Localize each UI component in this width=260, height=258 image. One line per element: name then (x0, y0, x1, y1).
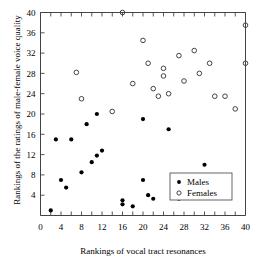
data-point-female (141, 38, 146, 43)
data-point-male (54, 137, 58, 141)
data-point-male (64, 185, 68, 189)
x-axis-title: Rankings of vocal tract resonances (80, 246, 205, 256)
data-point-female (192, 48, 197, 53)
data-point-female (182, 79, 187, 84)
x-tick-label: 36 (221, 222, 231, 232)
data-point-male (146, 193, 150, 197)
legend-label-females: Females (187, 188, 217, 198)
data-point-female (207, 61, 212, 66)
x-tick-label: 8 (79, 222, 84, 232)
data-point-female (74, 70, 79, 75)
data-point-female (161, 66, 166, 71)
x-tick-label: 32 (200, 222, 209, 232)
data-point-male (85, 122, 89, 126)
data-point-female (79, 96, 84, 101)
data-point-female (212, 94, 217, 99)
data-point-male (131, 204, 135, 208)
x-tick-label: 12 (98, 222, 107, 232)
data-point-female (130, 81, 135, 86)
y-tick-label: 32 (27, 48, 36, 58)
data-point-male (202, 163, 206, 167)
y-tick-label: 8 (31, 170, 36, 180)
data-point-female (233, 107, 238, 112)
y-tick-label: 12 (27, 150, 36, 160)
data-point-female (197, 71, 202, 76)
x-axis-title-container: Rankings of vocal tract resonances (40, 240, 246, 258)
data-point-male (59, 178, 63, 182)
data-point-female (223, 94, 228, 99)
data-point-male (120, 198, 124, 202)
data-point-female (177, 53, 182, 58)
x-tick-label: 16 (118, 222, 128, 232)
data-point-female (156, 94, 161, 99)
data-point-male (141, 117, 145, 121)
y-tick-label: 24 (27, 89, 37, 99)
data-point-female (110, 109, 115, 114)
data-point-female (166, 91, 171, 96)
legend-marker-males (177, 180, 181, 184)
y-tick-label: 20 (27, 109, 37, 119)
x-tick-label: 28 (180, 222, 190, 232)
data-point-male (49, 208, 53, 212)
data-point-male (95, 112, 99, 116)
data-point-male (69, 137, 73, 141)
x-tick-label: 24 (159, 222, 169, 232)
data-point-female (161, 74, 166, 79)
y-axis-title: Rankings of the ratings of male-female v… (12, 15, 22, 205)
data-point-male (120, 202, 124, 206)
y-axis-title-container: Rankings of the ratings of male-female v… (6, 3, 18, 218)
x-tick-label: 0 (38, 222, 43, 232)
data-point-male (90, 160, 94, 164)
data-point-female (146, 61, 151, 66)
y-tick-label: 36 (27, 28, 37, 38)
x-tick-label: 40 (241, 222, 251, 232)
data-point-female (151, 86, 156, 91)
y-tick-label: 28 (27, 69, 37, 79)
x-tick-label: 4 (59, 222, 64, 232)
data-point-male (141, 178, 145, 182)
data-point-male (167, 127, 171, 131)
y-tick-label: 16 (27, 130, 37, 140)
legend-label-males: Males (187, 177, 209, 187)
x-tick-label: 20 (139, 222, 149, 232)
y-tick-label: 4 (31, 190, 36, 200)
y-tick-label: 40 (27, 8, 37, 18)
data-point-male (95, 154, 99, 158)
data-point-male (79, 170, 83, 174)
data-point-male (100, 148, 104, 152)
data-point-male (151, 197, 155, 201)
